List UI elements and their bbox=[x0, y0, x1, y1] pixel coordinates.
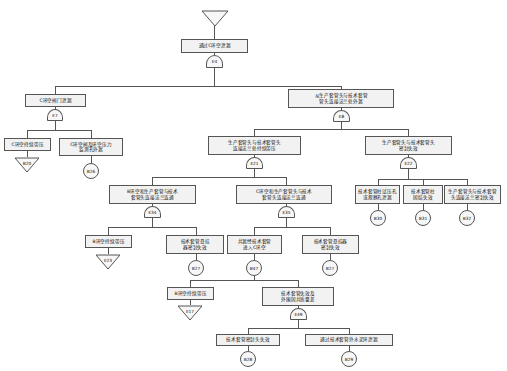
connector-b26box-to-circle bbox=[91, 156, 92, 163]
basic-event-b31: B31 bbox=[415, 210, 431, 226]
gate-e35-label: E35 bbox=[282, 210, 290, 215]
gate-e8-label: E8 bbox=[339, 114, 344, 119]
gate-e7-label: E7 bbox=[52, 113, 57, 118]
event-b28-text: 技术套管密封头失效 bbox=[218, 337, 278, 342]
basic-event-b28-label: B28 bbox=[244, 357, 252, 362]
event-e34-text: B环空和生产套管与技术套管头连接法兰连通 bbox=[111, 189, 194, 199]
event-b47-box: 井漏经技术套管进入C环空 bbox=[227, 235, 282, 254]
connector-top-to-e4 bbox=[214, 26, 215, 39]
bus-drop-b27a bbox=[196, 227, 197, 235]
event-e8-text: 从生产套管头与技术套管管头连接法兰处外漏 bbox=[290, 93, 392, 103]
bus-under-e34 bbox=[108, 227, 196, 228]
gate-e8: E8 bbox=[333, 110, 350, 122]
event-b26-text: C环空阀及环空压力监测孔外漏 bbox=[61, 142, 121, 152]
event-b30-text: 技术套管柱试压孔或观察孔泄漏 bbox=[357, 189, 398, 199]
event-e4-text: 通过C环空泄漏 bbox=[183, 43, 246, 48]
event-b30-box: 技术套管柱试压孔或观察孔泄漏 bbox=[355, 185, 400, 204]
connector-e22-to-bus bbox=[408, 169, 409, 179]
transfer-triangle-e23-label: E23 bbox=[95, 258, 121, 263]
gate-e34-label: E34 bbox=[148, 210, 156, 215]
connector-e8-to-bus bbox=[341, 122, 342, 129]
bus-drop-e17 bbox=[190, 280, 191, 287]
bus-drop-b20box bbox=[27, 130, 28, 138]
bus-under-e8 bbox=[254, 129, 408, 130]
fault-tree-diagram: 通过C环空泄漏 E4 C环空阀门泄漏 E7 C环空持续带压 B20 C环空阀及环… bbox=[0, 0, 507, 371]
gate-e49: E49 bbox=[290, 308, 307, 320]
basic-event-b30: B30 bbox=[370, 210, 386, 226]
event-e7-text: C环空阀门泄漏 bbox=[27, 98, 84, 103]
bus-under-e21 bbox=[152, 177, 286, 178]
bus-drop-e21 bbox=[254, 129, 255, 136]
basic-event-b29-label: B29 bbox=[345, 357, 353, 362]
basic-event-b27b: B27 bbox=[322, 260, 338, 276]
event-e34-box: B环空和生产套管与技术套管头连接法兰连通 bbox=[109, 185, 196, 204]
basic-event-b27b-label: B27 bbox=[326, 266, 334, 271]
bus-under-e49 bbox=[248, 328, 349, 329]
event-b27b-text: 技术套管悬挂器密封失效 bbox=[304, 239, 357, 249]
bus-under-b47 bbox=[190, 280, 298, 281]
event-e23-text: B环空持续带压 bbox=[87, 239, 130, 244]
transfer-triangle-e23: E23 bbox=[95, 254, 121, 270]
event-e49-text: 技术套管失效及外围固井质量差 bbox=[264, 291, 332, 301]
bus-drop-b47 bbox=[254, 227, 255, 235]
gate-e21: E21 bbox=[246, 157, 263, 169]
transfer-triangle-top bbox=[201, 10, 229, 27]
basic-event-b28: B28 bbox=[240, 351, 256, 367]
transfer-triangle-b20-label: B20 bbox=[14, 161, 40, 166]
event-b47-text: 井漏经技术套管进入C环空 bbox=[229, 239, 280, 249]
event-e35-box: C环空和生产套管头与技术套管头连接法兰连通 bbox=[236, 185, 332, 204]
event-b32-box: 生产套管头与技术套管头连接法兰密封失效 bbox=[444, 185, 501, 204]
connector-e34-to-bus bbox=[152, 218, 153, 227]
event-b27b-box: 技术套管悬挂器密封失效 bbox=[302, 235, 359, 254]
connector-e7-to-bus bbox=[55, 121, 56, 130]
event-b26-box: C环空阀及环空压力监测孔外漏 bbox=[59, 138, 123, 156]
gate-e22: E22 bbox=[400, 157, 417, 169]
event-b27a-box: 技术套管悬挂器密封失效 bbox=[166, 235, 224, 254]
event-e49-box: 技术套管失效及外围固井质量差 bbox=[262, 287, 334, 306]
event-b31-box: 技术套管柱固结失效 bbox=[403, 185, 443, 204]
event-b20-text: C环空持续带压 bbox=[6, 142, 49, 147]
event-e17-text: B环空持续带压 bbox=[169, 291, 212, 296]
bus-under-e35 bbox=[254, 227, 330, 228]
event-b20-box: C环空持续带压 bbox=[4, 138, 51, 151]
event-e7-box: C环空阀门泄漏 bbox=[25, 94, 86, 107]
gate-e34: E34 bbox=[144, 206, 161, 218]
gate-e4: E4 bbox=[206, 55, 223, 68]
connector-e49-to-bus bbox=[298, 320, 299, 328]
event-e22-text: 生产套管头与技术套管头密封失效 bbox=[367, 140, 450, 150]
basic-event-b32-label: B32 bbox=[463, 216, 471, 221]
event-e17-box: B环空持续带压 bbox=[167, 287, 214, 300]
basic-event-b26-label: B26 bbox=[87, 169, 95, 174]
basic-event-b30-label: B30 bbox=[374, 216, 382, 221]
gate-e7: E7 bbox=[47, 109, 63, 121]
basic-event-b27a: B27 bbox=[188, 260, 204, 276]
transfer-triangle-e17: E17 bbox=[177, 305, 203, 321]
event-b28-box: 技术套管密封头失效 bbox=[216, 334, 280, 346]
basic-event-b47: B47 bbox=[246, 260, 262, 276]
gate-e4-label: E4 bbox=[212, 59, 217, 64]
event-b29-text: 通过技术套管外水泥环泄漏 bbox=[307, 337, 391, 342]
gate-e35: E35 bbox=[278, 206, 295, 218]
basic-event-b26: B26 bbox=[83, 163, 99, 179]
bus-drop-e49 bbox=[298, 280, 299, 287]
basic-event-b29: B29 bbox=[341, 351, 357, 367]
event-e22-box: 生产套管头与技术套管头密封失效 bbox=[365, 136, 452, 155]
gate-e21-label: E21 bbox=[250, 161, 258, 166]
basic-event-b31-label: B31 bbox=[419, 216, 427, 221]
event-e21-text: 生产套管头与技术套管头连接法兰处持续带压 bbox=[210, 140, 299, 150]
event-b31-text: 技术套管柱固结失效 bbox=[405, 189, 441, 199]
event-e8-box: 从生产套管头与技术套管管头连接法兰处外漏 bbox=[288, 89, 394, 108]
bus-drop-e34 bbox=[152, 177, 153, 185]
bus-under-e4 bbox=[55, 86, 341, 87]
event-b27a-text: 技术套管悬挂器密封失效 bbox=[168, 239, 222, 249]
gate-e49-label: E49 bbox=[294, 312, 302, 317]
gate-e22-label: E22 bbox=[404, 161, 412, 166]
event-b29-box: 通过技术套管外水泥环泄漏 bbox=[305, 334, 393, 346]
transfer-triangle-e17-label: E17 bbox=[177, 309, 203, 314]
connector-e21-to-bus bbox=[254, 169, 255, 177]
event-b32-text: 生产套管头与技术套管头连接法兰密封失效 bbox=[446, 189, 499, 199]
bus-drop-b27b bbox=[330, 227, 331, 235]
bus-drop-e23 bbox=[108, 227, 109, 235]
basic-event-b32: B32 bbox=[459, 210, 475, 226]
bus-under-e7 bbox=[27, 130, 91, 131]
